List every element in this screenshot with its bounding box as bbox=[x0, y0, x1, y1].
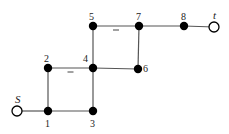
node-7 bbox=[135, 22, 143, 30]
network-graph: S12345678t bbox=[0, 0, 229, 134]
node-label-t: t bbox=[213, 9, 217, 21]
node-label-7: 7 bbox=[136, 11, 141, 22]
node-5 bbox=[89, 22, 97, 30]
node-2 bbox=[44, 64, 52, 72]
node-3 bbox=[89, 107, 97, 115]
node-4 bbox=[89, 64, 97, 72]
node-label-3: 3 bbox=[90, 118, 95, 129]
node-1 bbox=[44, 107, 52, 115]
node-label-5: 5 bbox=[89, 11, 94, 22]
node-label-8: 8 bbox=[181, 11, 186, 22]
sink-node-t bbox=[209, 22, 219, 32]
edge-4-6 bbox=[93, 68, 138, 69]
source-node-S bbox=[12, 106, 22, 116]
node-label-1: 1 bbox=[45, 118, 50, 129]
edge-7-6 bbox=[138, 26, 139, 69]
node-label-S: S bbox=[15, 93, 21, 105]
node-label-6: 6 bbox=[143, 63, 148, 74]
node-6 bbox=[134, 65, 142, 73]
node-label-4: 4 bbox=[83, 53, 88, 64]
node-8 bbox=[180, 22, 188, 30]
node-label-2: 2 bbox=[44, 53, 49, 64]
